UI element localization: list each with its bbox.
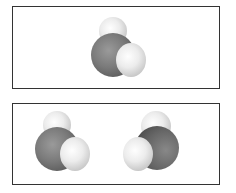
molecule-model-2: [33, 111, 93, 171]
hydrogen-atom-front-left: [123, 137, 153, 171]
hydrogen-atom-front-right: [116, 43, 146, 77]
molecule-model-1: [89, 17, 149, 77]
panel-top: [12, 6, 220, 89]
panel-bottom: [12, 103, 220, 185]
molecule-model-3: [123, 111, 183, 171]
hydrogen-atom-front-right: [60, 137, 90, 171]
